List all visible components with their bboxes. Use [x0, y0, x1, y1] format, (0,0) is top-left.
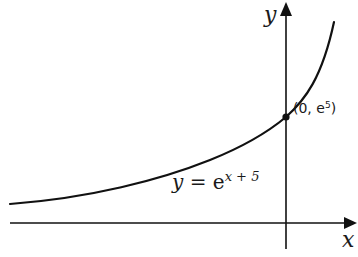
equation-exponent-text: x + 5: [225, 169, 260, 184]
intercept-label: (0, e5): [293, 100, 336, 116]
curve-equation-label: y = ex + 5: [172, 170, 259, 194]
equation-exponent: x + 5: [225, 169, 260, 184]
equation-equals: =: [183, 170, 212, 194]
graph-canvas: y x (0, e5) y = ex + 5: [0, 0, 358, 257]
y-axis-arrow-icon: [280, 2, 292, 16]
y-axis-label: y: [264, 2, 276, 27]
equation-base: e: [213, 170, 225, 194]
equation-lhs: y: [172, 170, 183, 194]
y-intercept-point: [282, 113, 289, 120]
intercept-label-suffix: ): [331, 100, 336, 116]
graph-svg: [0, 0, 358, 257]
x-axis-label: x: [342, 227, 354, 252]
intercept-label-prefix: (0, e: [293, 100, 325, 116]
